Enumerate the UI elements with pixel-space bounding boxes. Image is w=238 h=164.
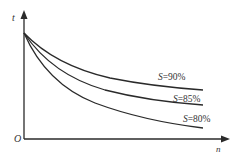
x-axis-arrow-icon	[221, 136, 230, 143]
series-label-s90: S=90%	[158, 73, 186, 83]
y-axis-label: t	[12, 13, 15, 23]
chart-canvas	[0, 0, 238, 164]
series-label-s85: S=85%	[173, 95, 201, 105]
series-label-s80: S=80%	[183, 115, 211, 125]
origin-label: O	[14, 134, 21, 144]
x-axis-label: n	[216, 145, 221, 154]
y-axis-arrow-icon	[21, 10, 28, 19]
